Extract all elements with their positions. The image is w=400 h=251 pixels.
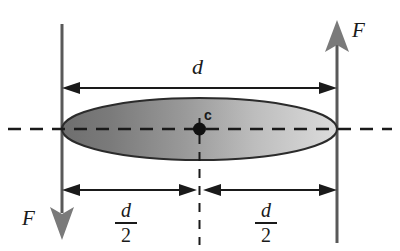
dimension-arrow-icon [203, 184, 221, 196]
dimension-arrow-icon [319, 184, 337, 196]
half-diameter-left-label: d 2 [115, 200, 137, 246]
half-left-denominator: 2 [115, 225, 137, 246]
dimension-arrow-icon [179, 184, 197, 196]
force-label-left: F [22, 208, 35, 229]
dimension-arrow-icon [319, 82, 337, 94]
dimension-arrow-icon [62, 82, 80, 94]
half-right-denominator: 2 [255, 225, 277, 246]
center-label: c [204, 108, 212, 122]
dimension-arrow-icon [62, 184, 80, 196]
dimension-line-d-half-right [203, 184, 337, 196]
half-right-numerator: d [255, 200, 277, 221]
center-point-icon [193, 123, 206, 136]
half-diameter-right-label: d 2 [255, 200, 277, 246]
diagram-canvas [0, 0, 400, 251]
force-label-right: F [352, 20, 365, 41]
half-left-numerator: d [115, 200, 137, 221]
force-couple-diagram: F F d c d 2 d 2 [0, 0, 400, 251]
diameter-label: d [192, 56, 203, 78]
dimension-line-d-half-left [62, 184, 197, 196]
dimension-line-d [62, 82, 337, 94]
